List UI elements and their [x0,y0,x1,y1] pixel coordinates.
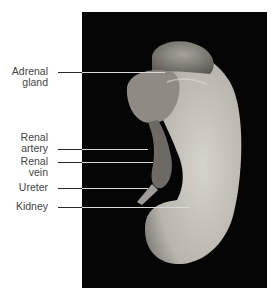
leader-line-kidney [58,207,82,208]
label-text: vein [21,167,48,178]
leader-line-adrenal-gland-inner [82,72,165,73]
leader-line-ureter [58,188,82,189]
leader-line-renal-vein-inner [82,162,153,163]
label-text: Kidney [16,201,48,212]
label-text: Ureter [19,182,48,193]
kidney-specimen-illustration [82,12,267,288]
leader-line-renal-vein [58,162,82,163]
leader-line-renal-artery [58,149,82,150]
label-adrenal-gland: Adrenal gland [12,66,48,88]
label-renal-vein: Renal vein [21,156,48,178]
leader-line-ureter-inner [82,188,148,189]
label-renal-artery: Renal artery [21,132,48,154]
label-ureter: Ureter [19,182,48,193]
label-text: gland [12,77,48,88]
leader-line-adrenal-gland [58,72,82,73]
leader-line-kidney-inner [82,207,190,208]
leader-line-renal-artery-inner [82,149,148,150]
label-text: artery [21,143,48,154]
specimen-photo [82,12,267,288]
label-kidney: Kidney [16,201,48,212]
